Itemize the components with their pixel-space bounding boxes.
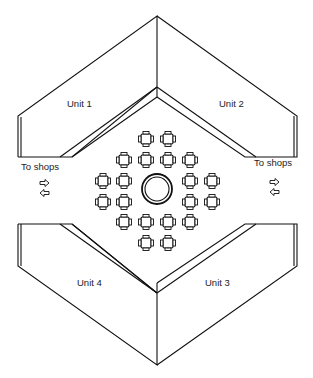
table-icon (205, 195, 220, 210)
exit-left-label: To shops (21, 161, 59, 172)
table-icon (96, 195, 111, 210)
table-icon (205, 174, 220, 189)
left-arrow-icon (270, 189, 279, 196)
table-icon (139, 236, 154, 251)
table-icon (117, 174, 132, 189)
exit-right: To shops (254, 157, 292, 196)
unit-1-label: Unit 1 (67, 98, 92, 109)
table-icon (139, 153, 154, 168)
table-icon (161, 236, 176, 251)
unit-4: Unit 4 (18, 224, 157, 365)
table-icon (183, 153, 198, 168)
table-icon (183, 174, 198, 189)
table-icon (183, 215, 198, 230)
unit-4-label: Unit 4 (77, 277, 102, 288)
table-icon (161, 153, 176, 168)
unit-3-label: Unit 3 (205, 277, 230, 288)
table-icon (161, 215, 176, 230)
table-icon (117, 195, 132, 210)
table-icon (117, 153, 132, 168)
table-icon (161, 132, 176, 147)
table-icon (139, 132, 154, 147)
tables (96, 132, 220, 251)
unit-2-label: Unit 2 (219, 98, 244, 109)
table-icon (117, 215, 132, 230)
unit-1: Unit 1 (18, 16, 157, 157)
left-arrow-icon (40, 190, 49, 197)
exit-right-label: To shops (254, 157, 292, 168)
exit-left: To shops (21, 161, 59, 197)
table-icon (139, 215, 154, 230)
table-icon (96, 174, 111, 189)
floor-plan: Unit 1 Unit 2 Unit 4 Unit 3 To shops To … (0, 0, 313, 378)
right-arrow-icon (40, 180, 49, 187)
fountain (142, 174, 172, 204)
unit-2: Unit 2 (157, 16, 297, 157)
table-icon (183, 195, 198, 210)
unit-3: Unit 3 (157, 224, 297, 365)
right-arrow-icon (270, 179, 279, 186)
